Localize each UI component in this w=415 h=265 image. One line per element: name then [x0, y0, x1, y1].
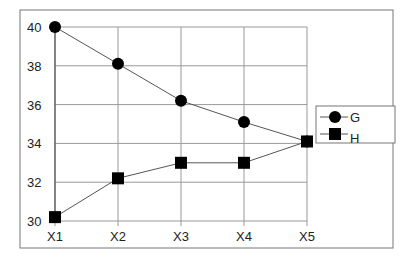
gridlines: [55, 27, 307, 226]
data-point: [238, 157, 250, 169]
y-tick-label: 40: [27, 20, 41, 35]
y-axis-ticks: 303234363840: [27, 20, 41, 229]
y-tick-label: 32: [27, 175, 41, 190]
data-point: [49, 211, 61, 223]
data-point: [175, 95, 187, 107]
chart: 303234363840 X1X2X3X4X5 G H: [0, 0, 415, 265]
legend: G H: [316, 106, 395, 146]
y-tick-label: 36: [27, 98, 41, 113]
x-tick-label: X1: [47, 229, 63, 244]
data-point: [301, 135, 313, 147]
x-tick-label: X5: [299, 229, 315, 244]
legend-label-g: G: [350, 110, 360, 125]
data-point: [49, 21, 61, 33]
data-point: [112, 58, 124, 70]
x-axis-ticks: X1X2X3X4X5: [47, 229, 315, 244]
x-tick-label: X2: [110, 229, 126, 244]
y-tick-label: 30: [27, 214, 41, 229]
y-tick-label: 38: [27, 59, 41, 74]
x-tick-label: X4: [236, 229, 252, 244]
y-tick-label: 34: [27, 136, 41, 151]
circle-marker-icon: [329, 111, 341, 123]
legend-label-h: H: [350, 131, 359, 146]
data-point: [112, 172, 124, 184]
data-point: [175, 157, 187, 169]
data-point: [238, 116, 250, 128]
x-tick-label: X3: [173, 229, 189, 244]
square-marker-icon: [329, 128, 341, 140]
